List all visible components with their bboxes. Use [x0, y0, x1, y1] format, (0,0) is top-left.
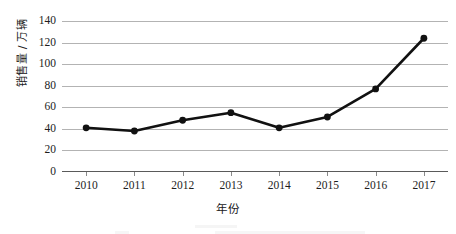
y-tick-label: 0 — [26, 166, 56, 178]
x-tickmark — [231, 172, 232, 176]
data-point-marker — [227, 109, 234, 116]
y-tick-label: 80 — [26, 80, 56, 92]
data-point-marker — [420, 35, 427, 42]
y-tick-label: 120 — [26, 37, 56, 49]
y-tick-label: 60 — [26, 101, 56, 113]
y-tick-label: 20 — [26, 144, 56, 156]
x-tickmark — [134, 172, 135, 176]
data-point-marker — [83, 124, 90, 131]
y-axis-tick-labels: 140 120 100 80 60 40 20 0 — [24, 0, 56, 234]
data-point-marker — [131, 128, 138, 135]
line-chart-figure: 销售量 / 万辆 140 120 100 80 60 40 20 0 20102… — [0, 0, 456, 234]
x-tick-label: 2017 — [412, 179, 435, 191]
scan-smudge — [195, 225, 237, 228]
x-tick-label: 2014 — [268, 179, 291, 191]
data-point-marker — [276, 124, 283, 131]
x-tickmark — [376, 172, 377, 176]
x-tick-label: 2010 — [75, 179, 98, 191]
x-tick-label: 2013 — [219, 179, 242, 191]
x-tick-label: 2011 — [123, 179, 146, 191]
x-tickmark — [424, 172, 425, 176]
x-tickmark — [327, 172, 328, 176]
x-axis-title: 年份 — [0, 200, 456, 216]
data-point-marker — [372, 86, 379, 93]
y-tick-label: 140 — [26, 15, 56, 27]
x-tickmark — [279, 172, 280, 176]
data-point-marker — [179, 117, 186, 124]
y-tick-label: 40 — [26, 123, 56, 135]
scan-smudge — [115, 231, 129, 234]
series-polyline — [86, 38, 424, 131]
x-tickmark — [86, 172, 87, 176]
plot-area — [62, 21, 448, 172]
gridline — [62, 172, 448, 173]
scan-smudge — [215, 231, 365, 234]
x-tick-label: 2015 — [316, 179, 339, 191]
y-tick-label: 100 — [26, 58, 56, 70]
data-point-marker — [324, 114, 331, 121]
x-tick-label: 2016 — [364, 179, 387, 191]
x-tick-label: 2012 — [171, 179, 194, 191]
data-series-line — [62, 21, 448, 172]
x-tickmark — [183, 172, 184, 176]
page-scan-artifact — [0, 224, 456, 234]
